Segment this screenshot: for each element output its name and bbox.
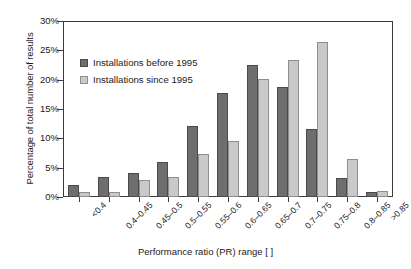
y-tick-label: 15%	[25, 104, 59, 114]
x-tick-label: <0.4	[89, 200, 108, 219]
bar-before-1995	[277, 87, 288, 197]
bar-before-1995	[157, 162, 168, 197]
bar-group	[183, 22, 213, 197]
y-tick-label: 25%	[25, 45, 59, 55]
bar-before-1995	[187, 126, 198, 197]
y-tick-label: 0%	[25, 192, 59, 202]
bars-container	[64, 22, 392, 197]
x-tick-label: 0.5–0.55	[183, 200, 214, 231]
y-tick-mark	[57, 21, 63, 22]
bar-group	[213, 22, 243, 197]
bar-before-1995	[68, 185, 79, 197]
bar-group	[124, 22, 154, 197]
bar-group	[332, 22, 362, 197]
legend-item-before-1995: Installations before 1995	[80, 57, 198, 68]
y-tick-label: 30%	[25, 16, 59, 26]
x-tick-label: 0.75–0.8	[332, 200, 363, 231]
bar-group	[153, 22, 183, 197]
bar-group	[94, 22, 124, 197]
y-tick-mark	[57, 138, 63, 139]
bar-before-1995	[128, 173, 139, 197]
y-tick-label: 20%	[25, 75, 59, 85]
x-tick-label: 0.45–0.5	[153, 200, 184, 231]
x-tick-label: >0.85	[388, 200, 410, 222]
bar-group	[243, 22, 273, 197]
x-tick-label: 0.4–0.45	[124, 200, 155, 231]
bar-since-1995	[258, 79, 269, 197]
bar-group	[303, 22, 333, 197]
bar-group	[273, 22, 303, 197]
legend: Installations before 1995 Installations …	[80, 57, 198, 85]
bar-before-1995	[306, 129, 317, 197]
y-tick-mark	[57, 50, 63, 51]
bar-group	[64, 22, 94, 197]
y-tick-mark	[57, 109, 63, 110]
bar-before-1995	[217, 93, 228, 197]
legend-label-since: Installations since 1995	[93, 74, 193, 85]
x-axis-title: Performance ratio (PR) range [ ]	[0, 246, 411, 257]
bar-since-1995	[288, 60, 299, 197]
x-tick-label: 0.65–0.7	[273, 200, 304, 231]
bar-since-1995	[139, 180, 150, 197]
x-tick-label: 0.55–0.6	[213, 200, 244, 231]
legend-item-since-1995: Installations since 1995	[80, 74, 198, 85]
bar-since-1995	[228, 141, 239, 197]
legend-label-before: Installations before 1995	[93, 57, 198, 68]
bar-chart: Percentage of total number of results <0…	[0, 0, 411, 269]
bar-before-1995	[247, 65, 258, 197]
bar-since-1995	[198, 154, 209, 197]
legend-swatch-icon-before	[80, 59, 88, 67]
x-tick-label: 0.7–0.75	[302, 200, 333, 231]
bar-since-1995	[168, 177, 179, 197]
y-tick-mark	[57, 168, 63, 169]
legend-swatch-icon-since	[80, 76, 88, 84]
y-tick-mark	[57, 197, 63, 198]
y-tick-label: 5%	[25, 163, 59, 173]
y-tick-label: 10%	[25, 133, 59, 143]
x-tick-label: 0.6–0.65	[243, 200, 274, 231]
bar-before-1995	[98, 177, 109, 197]
bar-since-1995	[317, 42, 328, 197]
x-axis-labels: <0.40.4–0.450.45–0.50.5–0.550.55–0.60.6–…	[64, 200, 392, 240]
bar-before-1995	[336, 178, 347, 197]
bar-group	[362, 22, 392, 197]
y-tick-mark	[57, 80, 63, 81]
bar-since-1995	[347, 159, 358, 198]
